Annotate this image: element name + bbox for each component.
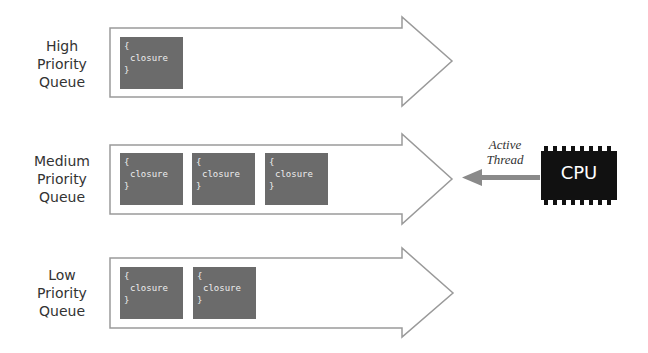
brace-open: { [269, 156, 324, 168]
label-line: Priority [12, 284, 112, 302]
brace-close: } [269, 180, 324, 192]
brace-open: { [124, 156, 179, 168]
label-line: High [12, 37, 112, 55]
closure-text: closure [269, 168, 324, 180]
active-thread-label: Active Thread [470, 137, 540, 167]
brace-close: } [124, 64, 179, 76]
label-line: Low [12, 266, 112, 284]
closure-text: closure [124, 282, 179, 294]
closure-block: { closure } [265, 153, 328, 205]
closure-text: closure [196, 168, 251, 180]
brace-close: } [124, 180, 179, 192]
closure-block: { closure } [192, 153, 255, 205]
closure-block: { closure } [193, 267, 256, 319]
brace-open: { [124, 270, 179, 282]
closure-block: { closure } [120, 37, 183, 89]
medium-priority-label: Medium Priority Queue [12, 152, 112, 206]
brace-open: { [197, 270, 252, 282]
label-line: Queue [12, 302, 112, 320]
brace-open: { [124, 40, 179, 52]
active-thread-arrow [462, 169, 540, 186]
brace-close: } [124, 294, 179, 306]
closure-text: closure [124, 168, 179, 180]
active-thread-line2: Thread [470, 152, 540, 167]
brace-open: { [196, 156, 251, 168]
brace-close: } [197, 294, 252, 306]
cpu-label: CPU [541, 162, 617, 183]
label-line: Queue [12, 73, 112, 91]
label-line: Queue [12, 188, 112, 206]
label-line: Priority [12, 55, 112, 73]
active-thread-line1: Active [470, 137, 540, 152]
low-priority-label: Low Priority Queue [12, 266, 112, 320]
closure-text: closure [124, 52, 179, 64]
label-line: Medium [12, 152, 112, 170]
closure-text: closure [197, 282, 252, 294]
closure-block: { closure } [120, 267, 183, 319]
closure-block: { closure } [120, 153, 183, 205]
high-priority-label: High Priority Queue [12, 37, 112, 91]
label-line: Priority [12, 170, 112, 188]
brace-close: } [196, 180, 251, 192]
